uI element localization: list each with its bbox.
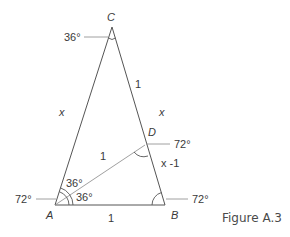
vertex-label-a: A xyxy=(45,209,53,221)
side-label-ac: x xyxy=(58,106,65,118)
triangle-diagram: C A B D x 1 x x -1 1 1 36° 72° 36° 36° 7… xyxy=(0,0,290,237)
angle-arc-d xyxy=(134,152,148,157)
angle-label-b: 72° xyxy=(192,193,209,205)
side-label-cd: x xyxy=(158,106,165,118)
vertex-label-c: C xyxy=(107,11,115,23)
side-label-ab: 1 xyxy=(108,212,114,224)
figure-caption: Figure A.3 xyxy=(222,211,282,225)
angle-arc-b xyxy=(152,193,162,206)
side-label-cb-upper: 1 xyxy=(135,78,141,90)
angle-arc-a-inner xyxy=(67,197,69,205)
side-label-db: x -1 xyxy=(161,157,179,169)
angle-arc-a-mid xyxy=(59,192,66,198)
side-label-ad: 1 xyxy=(100,150,106,162)
angle-label-c: 36° xyxy=(64,31,81,43)
angle-arc-a-outer xyxy=(61,188,74,205)
angle-label-a-lower: 36° xyxy=(76,191,93,203)
vertex-label-b: B xyxy=(171,209,178,221)
angle-label-a-outer: 72° xyxy=(15,193,32,205)
side-cb xyxy=(112,27,165,205)
angle-label-a-upper: 36° xyxy=(66,177,83,189)
angle-label-d: 72° xyxy=(174,138,191,150)
vertex-label-d: D xyxy=(148,126,156,138)
angle-arc-c xyxy=(109,38,116,40)
